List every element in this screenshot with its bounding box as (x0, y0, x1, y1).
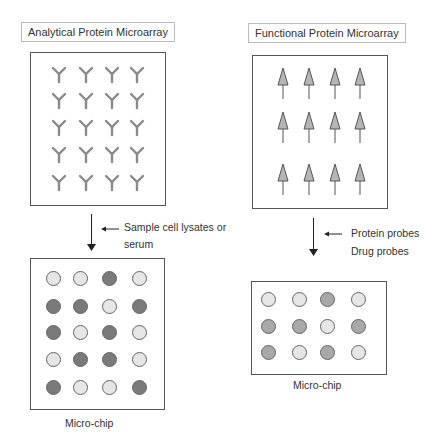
left-down-arrow-icon (87, 244, 96, 252)
spot-dark (102, 271, 117, 286)
spot-light (46, 271, 61, 286)
spot-light (132, 325, 147, 340)
spot-dark (102, 325, 117, 340)
antibody-icon (80, 121, 92, 135)
left-step-label-2: serum (124, 238, 153, 250)
protein-arrow-icon (304, 164, 314, 195)
spot-mid (320, 292, 335, 307)
antibody-icon (131, 94, 143, 108)
spot-light (320, 319, 335, 334)
functional-spot-grid (252, 282, 386, 374)
left-pointer-arrow-icon (101, 226, 119, 232)
antibody-icon (53, 94, 65, 108)
functional-title: Functional Protein Microarray (255, 27, 399, 39)
analytical-microchip (30, 258, 165, 410)
analytical-spot-grid (31, 259, 164, 409)
protein-arrow-icon (330, 112, 340, 143)
spot-light (292, 345, 307, 360)
antibody-icon (53, 68, 65, 82)
spot-light (73, 380, 88, 395)
right-step-label-1: Protein probes (351, 227, 419, 239)
spot-dark (46, 325, 61, 340)
antibody-icon (80, 148, 92, 162)
antibody-grid (31, 53, 165, 205)
protein-arrow-icon (355, 112, 365, 143)
functional-microchip (251, 281, 387, 375)
spot-dark (73, 299, 88, 314)
spot-light (46, 352, 61, 367)
right-down-arrow-icon (309, 249, 318, 257)
spot-dark (46, 380, 61, 395)
antibody-icon (53, 176, 65, 190)
analytical-title-box: Analytical Protein Microarray (21, 22, 175, 42)
antibody-icon (131, 121, 143, 135)
spot-dark (132, 380, 147, 395)
spot-light (102, 299, 117, 314)
left-step-label-1: Sample cell lysates or (124, 221, 226, 233)
protein-arrow-icon (330, 164, 340, 195)
antibody-icon (131, 176, 143, 190)
spot-light (132, 352, 147, 367)
spot-mid (351, 319, 366, 334)
antibody-icon (106, 121, 118, 135)
protein-arrow-icon (304, 68, 314, 99)
spot-light (351, 292, 366, 307)
spot-light (292, 292, 307, 307)
antibody-icon (106, 148, 118, 162)
protein-arrow-icon (278, 164, 288, 195)
antibody-icon (80, 94, 92, 108)
right-chip-label: Micro-chip (293, 379, 341, 391)
spot-light (261, 292, 276, 307)
protein-arrow-icon (330, 68, 340, 99)
antibody-icon (53, 148, 65, 162)
protein-arrow-icon (355, 164, 365, 195)
antibody-icon (131, 68, 143, 82)
antibody-icon (131, 148, 143, 162)
spot-light (132, 271, 147, 286)
spot-light (73, 325, 88, 340)
spot-light (102, 380, 117, 395)
antibody-icon (53, 121, 65, 135)
spot-light (73, 271, 88, 286)
protein-grid (253, 56, 387, 208)
analytical-title: Analytical Protein Microarray (28, 26, 168, 38)
spot-mid (261, 345, 276, 360)
protein-arrow-icon (304, 112, 314, 143)
left-chip-label: Micro-chip (65, 417, 113, 429)
antibody-icon (106, 94, 118, 108)
spot-mid (261, 319, 276, 334)
protein-arrow-icon (355, 68, 365, 99)
spot-dark (46, 299, 61, 314)
antibody-icon (80, 68, 92, 82)
protein-arrow-icon (278, 112, 288, 143)
functional-array-panel (252, 55, 388, 209)
right-flow-line (313, 218, 314, 252)
spot-dark (73, 352, 88, 367)
right-step-label-2: Drug probes (351, 245, 409, 257)
protein-arrow-icon (278, 68, 288, 99)
spot-mid (320, 345, 335, 360)
spot-mid (292, 319, 307, 334)
analytical-array-panel (30, 52, 166, 206)
spot-light (351, 345, 366, 360)
antibody-icon (106, 176, 118, 190)
right-pointer-arrow-icon (324, 231, 342, 237)
left-flow-line (91, 214, 92, 248)
antibody-icon (106, 68, 118, 82)
spot-dark (102, 352, 117, 367)
antibody-icon (80, 176, 92, 190)
spot-dark (132, 299, 147, 314)
functional-title-box: Functional Protein Microarray (248, 23, 406, 43)
